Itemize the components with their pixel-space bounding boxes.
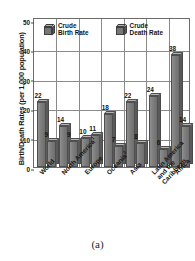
bar-value-label: 22: [124, 92, 131, 99]
bar-value-label: 9: [45, 131, 49, 138]
legend-label-line2: Birth Rate: [58, 29, 89, 36]
legend-label-line1: Crude: [130, 22, 148, 29]
bar-value-label: 14: [57, 116, 64, 123]
y-tick-label-0: 0: [26, 166, 34, 173]
y-tick-label-30: 30: [23, 77, 34, 84]
y-axis-title: Birth/Death Rates (per 1,000 population): [18, 19, 25, 179]
legend-label: Crude Birth Rate: [58, 22, 89, 36]
legend-label: Crude Death Rate: [130, 22, 163, 36]
legend-item-crude-birth-rate: Crude Birth Rate: [44, 22, 89, 36]
bar-value-label: 14: [179, 116, 186, 123]
bar-value-label: 22: [35, 92, 42, 99]
bar-latin-america-and-the-caribbean-birth: 24: [149, 96, 158, 167]
y-tick-label-10: 10: [23, 136, 34, 143]
gridline-y-30: [34, 81, 189, 82]
bar-value-label: 18: [102, 104, 109, 111]
y-tick-label-20: 20: [23, 107, 34, 114]
gridline-x-6: [169, 19, 170, 167]
bar-value-label: 8: [134, 133, 138, 140]
figure-caption: (a): [0, 238, 195, 250]
bar-value-label: 38: [169, 45, 176, 52]
bar-value-label: 10: [79, 128, 86, 135]
legend-label-line2: Death Rate: [130, 29, 163, 36]
figure-panel-a: Birth/Death Rates (per 1,000 population)…: [0, 0, 195, 261]
bar-value-label: 11: [89, 125, 96, 132]
bar-value-label: 9: [67, 131, 71, 138]
y-tick-label-50: 50: [23, 19, 34, 26]
chart-legend: Crude Birth Rate Crude Death Rate: [44, 22, 163, 36]
bar-value-label: 7: [112, 136, 116, 143]
bar-value-label: 24: [147, 86, 154, 93]
legend-cube-icon: [116, 24, 127, 35]
legend-label-line1: Crude: [58, 22, 76, 29]
y-tick-label-40: 40: [23, 48, 34, 55]
gridline-y-40: [34, 51, 189, 52]
plot-area: 01020304050 22914910111872282463814: [33, 18, 190, 168]
bar-value-label: 6: [157, 139, 161, 146]
legend-item-crude-death-rate: Crude Death Rate: [116, 22, 163, 36]
legend-cube-icon: [44, 24, 55, 35]
